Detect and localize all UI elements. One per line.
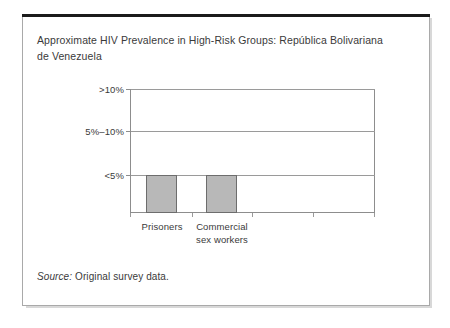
gridline-5-to-10-percent <box>130 131 375 132</box>
source-label: Source: <box>37 271 72 282</box>
bar-commercial-sex-workers <box>206 175 237 213</box>
y-axis-tick-label-5-to-10-percent: 5%–10% <box>46 126 124 137</box>
category-prisoners-line-1: Prisoners <box>141 221 182 232</box>
chart-title: Approximate HIV Prevalence in High-Risk … <box>37 32 397 64</box>
y-axis-tick-label-above-10-percent: >10% <box>46 84 124 95</box>
x-axis-tick-mark-1 <box>192 213 193 217</box>
x-axis-tick-mark-3 <box>313 213 314 217</box>
x-axis-category-label-commercial-sex-workers: Commercial sex workers <box>187 221 257 246</box>
source-note: Source: Original survey data. <box>37 271 169 282</box>
gridline-above-10-percent <box>130 89 375 90</box>
plot-frame-right <box>374 89 375 212</box>
plot-frame-left <box>130 89 131 212</box>
y-axis-tick-mark-below-5-percent <box>126 175 131 176</box>
y-axis-tick-mark-above-10-percent <box>126 89 131 90</box>
y-axis-tick-label-below-5-percent: <5% <box>46 170 124 181</box>
bar-prisoners <box>146 175 177 213</box>
x-axis-category-label-prisoners: Prisoners <box>131 221 193 234</box>
x-axis-tick-mark-2 <box>252 213 253 217</box>
figure-frame-top-rule <box>22 14 430 17</box>
category-sex-workers-line-1: Commercial <box>196 221 248 232</box>
x-axis-tick-mark-4 <box>374 213 375 217</box>
chart-title-line-1: Approximate HIV Prevalence in High-Risk … <box>37 34 383 46</box>
figure-frame-shadow-right <box>430 18 432 308</box>
chart-title-line-2: de Venezuela <box>37 50 102 62</box>
figure-frame-shadow-bottom <box>26 306 432 308</box>
source-text: Original survey data. <box>75 271 169 282</box>
x-axis-tick-mark-0 <box>130 213 131 217</box>
y-axis-tick-mark-5-to-10-percent <box>126 131 131 132</box>
category-sex-workers-line-2: sex workers <box>196 234 248 245</box>
